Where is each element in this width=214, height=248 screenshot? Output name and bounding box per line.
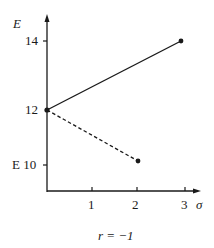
y-axis-arrow-icon [45, 14, 50, 22]
y-tick-label-12: 12 [25, 102, 38, 117]
x-tick-label-1: 1 [88, 197, 95, 212]
dashed-line-series [47, 110, 138, 161]
point-upper-end [179, 39, 184, 44]
point-lower-end [136, 159, 141, 164]
point-origin [44, 107, 49, 112]
x-axis-label: σ [196, 197, 203, 212]
y-axis-label: E [12, 16, 21, 31]
y-tick-label-10: E 10 [12, 157, 36, 172]
x-axis-arrow-icon [193, 189, 201, 194]
chart-caption: r = −1 [98, 228, 134, 243]
solid-line-series [47, 41, 181, 110]
x-tick-label-2: 2 [132, 197, 139, 212]
chart: E 14 12 E 10 1 2 3 σ r = −1 [0, 0, 214, 248]
x-tick-label-3: 3 [181, 197, 188, 212]
y-tick-label-14: 14 [25, 33, 39, 48]
